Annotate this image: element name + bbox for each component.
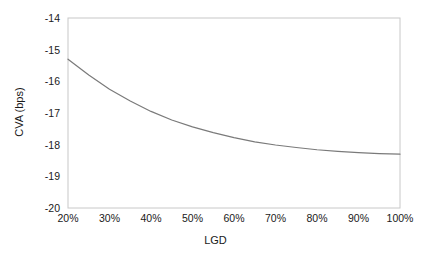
y-axis-title-wrapper: CVA (bps) [9,52,27,172]
x-tick-label: 90% [339,212,379,224]
x-tick-label: 50% [173,212,213,224]
x-tick-label: 20% [48,212,88,224]
y-tick-label: -18 [26,139,60,151]
cva-lgd-line-chart: -14 -15 -16 -17 -18 -19 -20 20% 30% 40% … [0,0,431,259]
y-tick-label: -14 [26,12,60,24]
y-tick-label: -19 [26,170,60,182]
x-tick-label: 30% [90,212,130,224]
y-tick-label: -16 [26,75,60,87]
x-tick-label: 100% [380,212,420,224]
x-tick-label: 60% [214,212,254,224]
x-tick-label: 80% [297,212,337,224]
plot-area-frame [68,18,400,208]
y-tick-label: -17 [26,107,60,119]
x-tick-label: 70% [256,212,296,224]
y-tick-label: -15 [26,44,60,56]
y-axis-title: CVA (bps) [13,87,25,136]
x-axis-title: LGD [0,234,431,246]
x-tick-label: 40% [131,212,171,224]
